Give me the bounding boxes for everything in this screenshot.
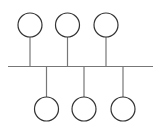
bus-topology-diagram bbox=[0, 0, 164, 130]
top-node-2 bbox=[56, 13, 80, 67]
bottom-node-2 bbox=[72, 67, 96, 122]
node-circle bbox=[111, 97, 135, 121]
node-circle bbox=[94, 13, 118, 37]
top-nodes bbox=[18, 13, 118, 67]
node-circle bbox=[72, 97, 96, 121]
top-node-3 bbox=[94, 13, 118, 67]
top-node-1 bbox=[18, 13, 42, 67]
bottom-node-1 bbox=[35, 67, 59, 122]
bottom-nodes bbox=[35, 67, 136, 122]
bottom-node-3 bbox=[111, 67, 135, 122]
node-circle bbox=[18, 13, 42, 37]
node-circle bbox=[56, 13, 80, 37]
node-circle bbox=[35, 97, 59, 121]
